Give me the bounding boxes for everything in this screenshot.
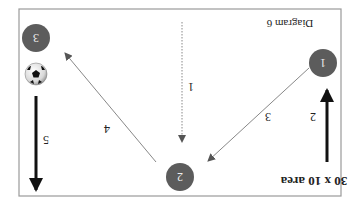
- diagram-title: 30 x 10 area: [280, 174, 347, 189]
- diagram-canvas: Diagram 6 30 x 10 area 1 2 3 4 5 1 2 3: [0, 0, 358, 210]
- arrow-1-label: 1: [188, 80, 194, 94]
- soccer-ball-icon: [25, 63, 47, 85]
- player-node-3: 3: [22, 24, 50, 52]
- player-node-1: 1: [309, 49, 337, 77]
- diagram-caption: Diagram 6: [266, 18, 313, 30]
- player-node-1-label: 1: [320, 56, 326, 70]
- player-node-2: 2: [166, 163, 194, 191]
- arrow-3-label: 3: [265, 110, 271, 124]
- arrow-4-label: 4: [104, 122, 110, 136]
- player-node-3-label: 3: [33, 31, 39, 45]
- arrow-2-label: 2: [310, 110, 316, 124]
- player-node-2-label: 2: [177, 170, 183, 184]
- arrow-5-label: 5: [43, 133, 49, 147]
